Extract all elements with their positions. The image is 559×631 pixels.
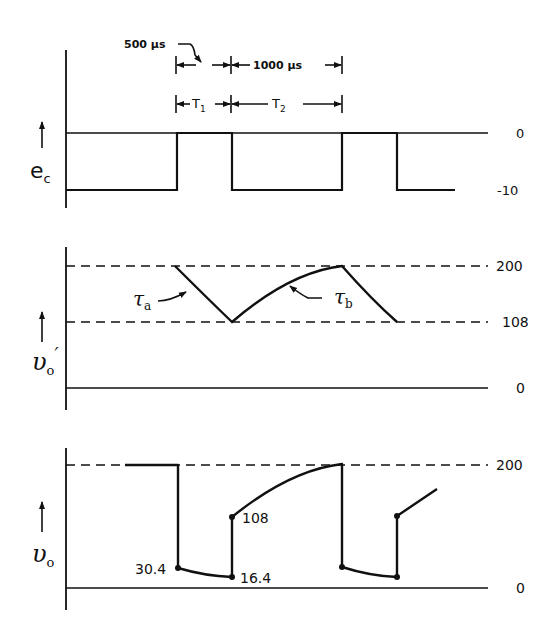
ec-level-0: 0 [516,126,524,141]
vo-prime-level-200: 200 [496,258,523,274]
t1-duration-label: 500 μs [124,38,166,51]
vo-prime-level-0: 0 [516,380,525,396]
vo-waveform [125,464,437,577]
t1-label: T1 [191,96,206,114]
panel-vo: υo 30.4 16.4 108 200 0 [32,448,525,610]
t2-duration-label: 1000 μs [253,59,303,72]
panel-vo-prime: υo′ τa τb 200 108 0 [32,247,529,410]
ec-waveform [66,133,455,190]
tau-b-label: τb [334,285,353,311]
vo-prime-waveform [175,266,397,322]
tau-a-leader [158,292,186,301]
vo-level-200: 200 [496,457,523,473]
vo-prime-ylabel: υo′ [32,344,59,378]
ec-level-minus10: -10 [497,183,518,198]
ec-ylabel: ec [30,158,51,186]
t2-label: T2 [271,96,286,114]
vo-label-16-4: 16.4 [240,570,271,586]
timing-dimensions [176,44,342,113]
vo-level-0: 0 [516,580,525,596]
tau-b-leader [290,286,322,298]
vo-label-30-4: 30.4 [135,561,166,577]
vo-ylabel: υo [32,540,55,570]
panel-ec: ec 0 -10 [30,50,524,208]
waveform-diagram: 500 μs 1000 μs T1 T2 ec 0 -10 υo′ τa τb … [0,0,559,631]
vo-label-108: 108 [242,510,269,526]
vo-prime-level-108: 108 [502,314,529,330]
tau-a-label: τa [133,287,151,313]
vo-points [175,513,400,580]
